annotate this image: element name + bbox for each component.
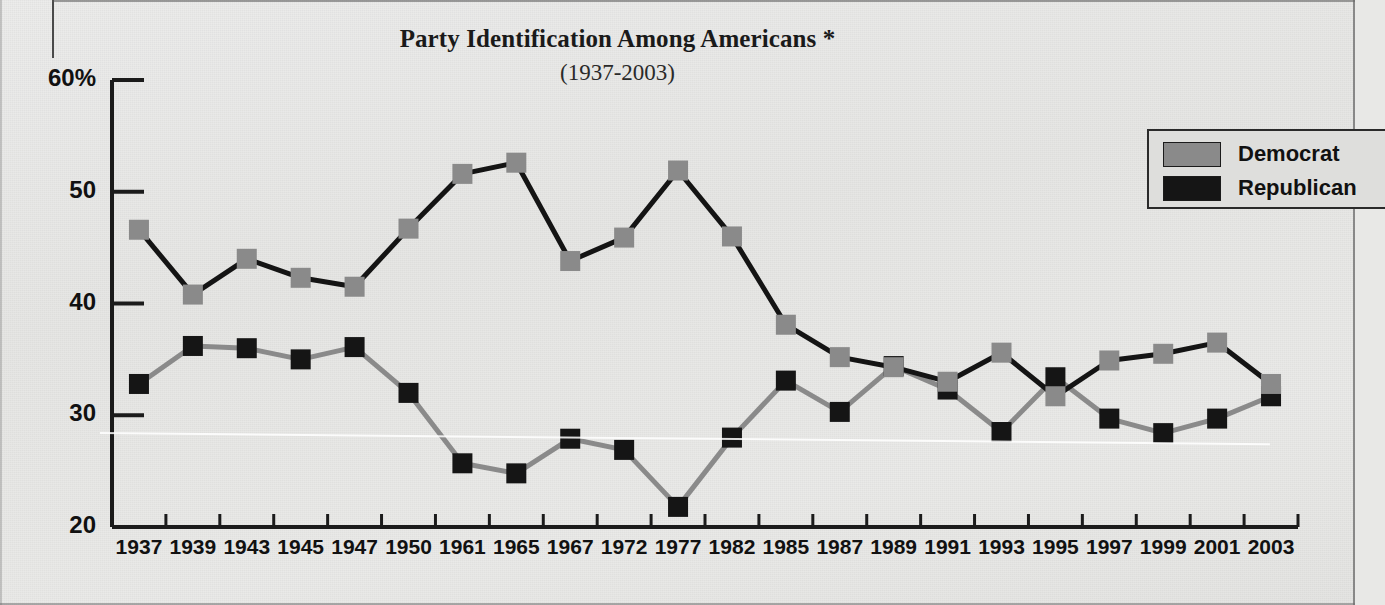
legend-label-republican: Republican	[1238, 175, 1357, 201]
data-point	[506, 463, 526, 483]
legend-swatch-republican	[1163, 176, 1221, 201]
data-point	[830, 347, 850, 367]
data-point	[560, 251, 580, 271]
data-point	[776, 371, 796, 391]
data-point	[614, 228, 634, 248]
x-tick-label-2003: 2003	[1248, 535, 1295, 559]
data-point	[1153, 423, 1173, 443]
x-tick-label-1999: 1999	[1140, 535, 1187, 559]
data-point	[183, 285, 203, 305]
data-point	[1207, 409, 1227, 429]
data-point	[776, 315, 796, 335]
x-tick-label-1945: 1945	[277, 535, 324, 559]
data-point	[614, 440, 634, 460]
data-point	[452, 164, 472, 184]
data-point	[345, 277, 365, 297]
x-tick-label-1991: 1991	[924, 535, 971, 559]
data-point	[722, 226, 742, 246]
data-point	[992, 343, 1012, 363]
x-tick-label-1995: 1995	[1032, 535, 1079, 559]
data-point	[183, 336, 203, 356]
x-tick-label-1997: 1997	[1086, 535, 1133, 559]
x-tick-label-1982: 1982	[709, 535, 756, 559]
legend-item-democrat: Democrat	[1163, 139, 1385, 169]
data-point	[884, 357, 904, 377]
x-tick-label-1937: 1937	[116, 535, 163, 559]
x-tick-label-1961: 1961	[439, 535, 486, 559]
legend-item-republican: Republican	[1163, 173, 1385, 203]
x-tick-label-1977: 1977	[655, 535, 702, 559]
data-point	[399, 219, 419, 239]
data-point	[345, 337, 365, 357]
x-tick-label-1985: 1985	[763, 535, 810, 559]
x-tick-label-1950: 1950	[385, 535, 432, 559]
x-tick-label-1967: 1967	[547, 535, 594, 559]
x-tick-label-2001: 2001	[1194, 535, 1241, 559]
data-point	[506, 153, 526, 173]
x-tick-label-1972: 1972	[601, 535, 648, 559]
chart-legend: Democrat Republican	[1147, 129, 1385, 209]
data-point	[992, 422, 1012, 442]
data-point	[237, 338, 257, 358]
legend-label-democrat: Democrat	[1238, 141, 1339, 167]
x-tick-label-1965: 1965	[493, 535, 540, 559]
data-point	[237, 249, 257, 269]
data-point	[560, 429, 580, 449]
data-point	[1261, 374, 1281, 394]
data-point	[830, 402, 850, 422]
data-point	[1099, 409, 1119, 429]
data-point	[1045, 386, 1065, 406]
x-tick-label-1989: 1989	[870, 535, 917, 559]
data-point	[291, 268, 311, 288]
data-point	[452, 453, 472, 473]
data-point	[129, 220, 149, 240]
legend-swatch-democrat	[1163, 142, 1221, 167]
data-point	[1045, 367, 1065, 387]
x-tick-label-1993: 1993	[978, 535, 1025, 559]
data-point	[668, 161, 688, 181]
data-point	[129, 374, 149, 394]
data-point	[938, 372, 958, 392]
data-point	[291, 349, 311, 369]
data-point	[1153, 344, 1173, 364]
x-tick-label-1943: 1943	[223, 535, 270, 559]
x-tick-label-1987: 1987	[816, 535, 863, 559]
data-point	[399, 383, 419, 403]
data-point	[1207, 333, 1227, 353]
data-point	[668, 497, 688, 517]
data-point	[722, 428, 742, 448]
data-point	[1099, 350, 1119, 370]
x-tick-label-1939: 1939	[170, 535, 217, 559]
x-axis-labels: 1937193919431945194719501961196519671972…	[0, 535, 1355, 569]
x-tick-label-1947: 1947	[331, 535, 378, 559]
